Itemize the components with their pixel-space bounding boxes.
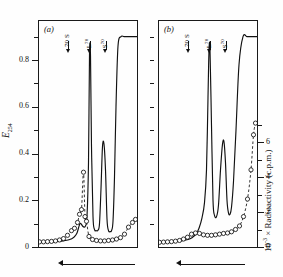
- panel-b-left-tick: [150, 130, 154, 131]
- left-axis-tick: [32, 60, 38, 61]
- marker-label-main: S: [101, 44, 109, 48]
- left-axis-minor-tick: [34, 83, 38, 84]
- marker-label-main: 70 S: [183, 34, 191, 47]
- panel-b-left-tick: [150, 200, 154, 201]
- marker-label-sup: 70: [100, 39, 105, 44]
- marker-arrow-head: [207, 49, 211, 53]
- panel-b-left-tick: [150, 107, 154, 108]
- sedimentation-direction-arrow: [58, 259, 136, 269]
- right-axis-tick-label: 4: [266, 172, 270, 181]
- marker-arrow-head: [66, 49, 70, 53]
- marker-label: S70: [100, 39, 109, 48]
- marker-label: 70 S: [183, 34, 191, 47]
- left-axis-tick: [32, 200, 38, 201]
- marker-label-main: 70 S: [63, 34, 71, 47]
- panel-b-left-tick: [150, 177, 154, 178]
- marker-label: 70 S: [63, 34, 71, 47]
- panel-b-left-tick: [150, 224, 154, 225]
- right-axis-tick-label: 2: [266, 207, 270, 216]
- left-axis-minor-tick: [34, 177, 38, 178]
- left-axis-tick: [32, 107, 38, 108]
- right-axis-minor-tick: [258, 160, 262, 161]
- marker-label-main: L: [85, 44, 93, 48]
- figure-root: E254 10-3 × Radioactivity (c.p.m.) (a) (…: [0, 0, 283, 277]
- direction-arrow-head: [58, 260, 63, 266]
- marker-arrow-head: [87, 49, 91, 53]
- panel-b-left-tick: [150, 83, 154, 84]
- right-axis-tick: [258, 142, 264, 143]
- marker-label-main: S: [221, 44, 229, 48]
- panel-b-letter: (b): [164, 24, 174, 34]
- left-axis-title: E254: [1, 123, 13, 138]
- right-axis-minor-tick: [258, 195, 262, 196]
- panel-b-left-tick: [150, 37, 154, 38]
- right-axis-title: 10-3 × Radioactivity (c.p.m.): [262, 149, 273, 252]
- left-axis-title-main: E: [1, 132, 11, 138]
- left-axis-tick: [32, 154, 38, 155]
- marker-arrow-head: [103, 49, 107, 53]
- marker-label-sup: 70: [84, 39, 89, 44]
- panel-a-frame: [38, 20, 138, 248]
- right-axis-tick-label: 0: [266, 242, 270, 251]
- left-axis-tick-label: 0.2: [0, 195, 29, 204]
- right-axis-tick: [258, 177, 264, 178]
- marker-arrow-head: [186, 49, 190, 53]
- sedimentation-direction-arrow: [176, 259, 246, 269]
- marker-label-main: L: [205, 44, 213, 48]
- marker-arrow-head: [223, 49, 227, 53]
- left-axis-tick-label: 0.4: [0, 148, 29, 157]
- left-axis-tick-label: 0.6: [0, 101, 29, 110]
- marker-label: L70: [204, 39, 213, 49]
- panel-b: (b): [158, 20, 258, 248]
- direction-arrow-head: [176, 260, 181, 266]
- direction-arrow-shaft: [181, 264, 245, 265]
- direction-arrow-shaft: [63, 264, 135, 265]
- left-axis-title-sub: 254: [7, 123, 13, 132]
- panel-a-letter: (a): [44, 24, 54, 34]
- marker-label-sup: 70: [204, 39, 209, 44]
- left-axis-tick: [32, 247, 38, 248]
- panel-b-left-tick: [150, 154, 154, 155]
- left-axis-minor-tick: [34, 224, 38, 225]
- right-axis-minor-tick: [258, 125, 262, 126]
- left-axis-minor-tick: [34, 130, 38, 131]
- panel-b-frame: [158, 20, 258, 248]
- left-axis-tick-label: 0.8: [0, 55, 29, 64]
- right-axis-minor-tick: [258, 230, 262, 231]
- panel-a: (a): [38, 20, 138, 248]
- left-axis-minor-tick: [34, 37, 38, 38]
- marker-label-sup: 70: [220, 39, 225, 44]
- right-axis-tick: [258, 212, 264, 213]
- left-axis-tick-label: 0: [0, 242, 29, 251]
- marker-label: S70: [220, 39, 229, 48]
- right-axis-title-rest: × Radioactivity (c.p.m.): [263, 149, 273, 238]
- right-axis-tick: [258, 247, 264, 248]
- panel-b-left-tick: [150, 60, 154, 61]
- marker-label: L70: [84, 39, 93, 49]
- right-axis-tick-label: 6: [266, 137, 270, 146]
